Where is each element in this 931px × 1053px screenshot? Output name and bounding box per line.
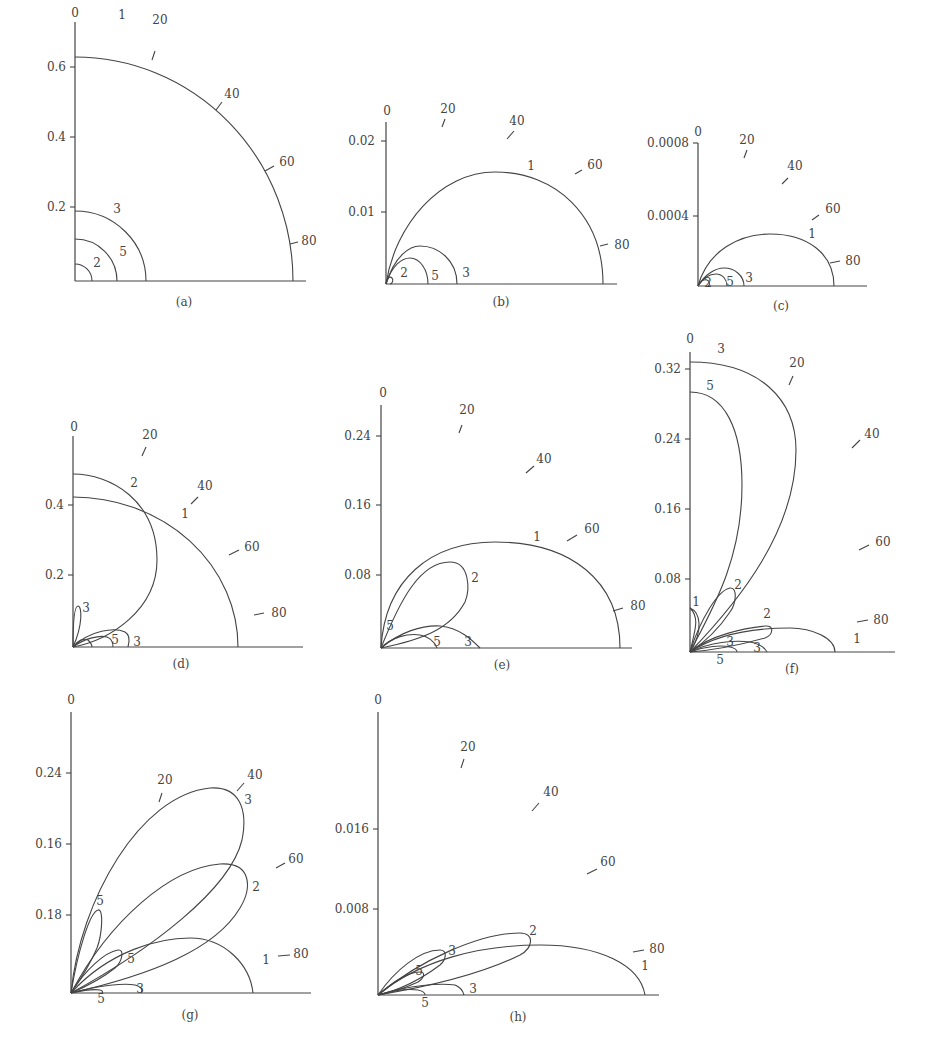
- curve-label: 2: [130, 476, 138, 490]
- angle-mark: 40: [543, 785, 558, 799]
- angle-mark: 60: [584, 522, 599, 536]
- angle-mark: 0: [71, 6, 79, 20]
- curve-label: 1: [692, 595, 700, 609]
- curve-label: 5: [386, 619, 394, 633]
- angle-mark: 20: [460, 740, 475, 754]
- curve-label: 1: [853, 632, 861, 646]
- panel-c: 0.0008 0.0004 0 20 40 60 80 1 2 5 3 (c): [647, 125, 867, 313]
- y-tick: 0.4: [45, 498, 64, 512]
- curve-1: [698, 234, 834, 286]
- angle-mark: 0: [383, 104, 391, 118]
- angle-mark: 40: [247, 768, 262, 782]
- curve-label: 2: [252, 880, 260, 894]
- curve-2: [381, 562, 468, 648]
- curve-label: 3: [753, 641, 761, 655]
- curve-3: [75, 211, 146, 281]
- curve-label: 2: [704, 276, 712, 290]
- angle-mark: 80: [293, 947, 308, 961]
- y-tick: 0.016: [335, 822, 369, 836]
- y-tick: 0.01: [348, 205, 375, 219]
- angle-mark: 20: [459, 403, 474, 417]
- angle-mark: 0: [686, 332, 694, 346]
- angle-mark: 60: [875, 535, 890, 549]
- angle-mark: 20: [142, 428, 157, 442]
- curve-2: [73, 474, 157, 647]
- panel-h: 0.016 0.008 0 20 40 60 80 2 1 3 5 3 5 (h…: [335, 693, 665, 1024]
- curve-label: 2: [400, 266, 408, 280]
- curve-label: 1: [181, 507, 189, 521]
- angle-mark: 40: [197, 479, 212, 493]
- y-tick: 0.24: [344, 429, 371, 443]
- curve-label: 5: [96, 894, 104, 908]
- curve-5: [690, 392, 742, 652]
- y-tick: 0.32: [654, 362, 681, 376]
- y-tick: 0.16: [344, 498, 371, 512]
- curve-label: 5: [716, 653, 724, 667]
- panel-caption: (c): [773, 299, 789, 313]
- curve-label: 2: [529, 924, 537, 938]
- angle-mark: 80: [301, 234, 316, 248]
- curve-label: 3: [82, 601, 90, 615]
- curve-3-small: [378, 984, 464, 995]
- curve-label: 3: [136, 982, 144, 996]
- curve-1: [386, 172, 603, 284]
- y-tick: 0.24: [35, 766, 62, 780]
- polar-figure: 0.6 0.4 0.2 0 20 40 60 80 1 3 5 2 (a) 0.…: [0, 0, 931, 1053]
- curve-label: 2: [471, 571, 479, 585]
- curve-1: [690, 628, 835, 652]
- angle-mark: 0: [67, 693, 75, 707]
- y-tick: 0.16: [35, 837, 62, 851]
- panel-a: 0.6 0.4 0.2 0 20 40 60 80 1 3 5 2 (a): [47, 6, 317, 309]
- angle-mark: 60: [288, 852, 303, 866]
- curve-label: 5: [415, 964, 423, 978]
- angle-mark: 80: [630, 599, 645, 613]
- angle-mark: 40: [509, 114, 524, 128]
- angle-mark: 40: [787, 159, 802, 173]
- angle-mark: 40: [864, 427, 879, 441]
- y-tick: 0.08: [344, 568, 371, 582]
- angle-mark: 0: [70, 420, 78, 434]
- angle-mark: 80: [649, 942, 664, 956]
- curve-label: 3: [469, 982, 477, 996]
- curve-2: [378, 933, 531, 995]
- curve-1: [75, 57, 293, 281]
- curve-label: 2: [734, 578, 742, 592]
- angle-mark: 60: [279, 155, 294, 169]
- panel-g: 0.24 0.16 0.18 0 20 40 60 80 3 2 1 5 5 3…: [35, 693, 311, 1022]
- panel-d: 0.4 0.2 0 20 40 60 80 1 2 3 5 3 (d): [45, 420, 303, 671]
- panel-e: 0.24 0.16 0.08 0 20 40 60 80 1 2 5 5 3 (…: [344, 386, 645, 672]
- y-tick: 0.6: [47, 60, 66, 74]
- curve-label: 5: [97, 992, 105, 1006]
- angle-mark: 60: [244, 540, 259, 554]
- curve-label: 3: [745, 271, 753, 285]
- angle-mark: 60: [600, 855, 615, 869]
- panel-caption: (a): [176, 295, 193, 309]
- y-tick: 0.16: [654, 502, 681, 516]
- curve-label: 1: [527, 159, 535, 173]
- panel-caption: (f): [785, 662, 799, 676]
- y-tick: 0.2: [47, 200, 66, 214]
- angle-mark: 20: [789, 356, 804, 370]
- curve-label: 2: [763, 607, 771, 621]
- angle-mark: 80: [614, 238, 629, 252]
- curve-label: 1: [262, 953, 270, 967]
- angle-mark: 20: [739, 133, 754, 147]
- curve-label: 5: [433, 635, 441, 649]
- curve-3: [690, 362, 796, 652]
- angle-mark: 0: [374, 693, 382, 707]
- angle-mark: 0: [694, 125, 702, 139]
- y-tick: 0.24: [654, 432, 681, 446]
- panel-caption: (d): [172, 657, 189, 671]
- y-tick: 0.0004: [647, 209, 689, 223]
- curve-label: 3: [133, 635, 141, 649]
- curve-label: 3: [726, 635, 734, 649]
- curve-label: 5: [119, 245, 127, 259]
- angle-mark: 20: [157, 773, 172, 787]
- y-tick: 0.4: [47, 130, 66, 144]
- curve-2: [71, 864, 247, 993]
- y-tick: 0.2: [45, 568, 64, 582]
- angle-mark: 60: [587, 158, 602, 172]
- curve-label: 3: [462, 266, 470, 280]
- curve-label: 3: [717, 342, 725, 356]
- y-tick: 0.0008: [647, 136, 689, 150]
